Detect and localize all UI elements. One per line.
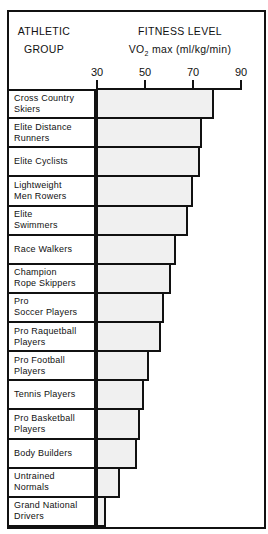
bar: [96, 323, 161, 352]
bar: [96, 177, 193, 206]
x-axis-ticks: 30 50 70 90: [0, 66, 268, 90]
row-label-line1: Race Walkers: [14, 244, 72, 255]
row-label-line1: Body Builders: [14, 448, 72, 459]
bar: [96, 207, 188, 236]
table-row: ProSoccer Players: [9, 294, 262, 323]
row-label-line2: Rope Skippers: [14, 278, 76, 289]
bar: [96, 90, 214, 119]
row-label-text: LightweightMen Rowers: [14, 180, 67, 202]
table-row: Cross CountrySkiers: [9, 90, 262, 119]
bar: [96, 352, 149, 381]
row-label: Cross CountrySkiers: [9, 90, 96, 119]
row-label: Pro RaquetballPlayers: [9, 323, 96, 352]
row-label-line2: Men Rowers: [14, 191, 67, 202]
row-label-line2: Runners: [14, 133, 72, 144]
row-label-line2: Players: [14, 424, 75, 435]
row-label-text: Race Walkers: [14, 244, 72, 255]
row-label-line1: Pro Football: [14, 355, 65, 366]
row-label-line2: Swimmers: [14, 220, 58, 231]
table-row: Pro FootballPlayers: [9, 352, 262, 381]
vo-units: max (ml/kg/min): [149, 43, 231, 55]
bar: [96, 236, 176, 265]
vo-text: VO: [129, 43, 145, 55]
row-label-line1: Grand National: [14, 500, 77, 511]
row-label-line1: Elite Distance: [14, 122, 72, 133]
row-label-line2: Soccer Players: [14, 307, 77, 318]
row-label: ProSoccer Players: [9, 294, 96, 323]
row-label-text: Body Builders: [14, 448, 72, 459]
bar: [96, 410, 140, 439]
row-label: EliteSwimmers: [9, 207, 96, 236]
row-label-line1: Pro Basketball: [14, 413, 75, 424]
table-row: Tennis Players: [9, 381, 262, 410]
row-label-line1: Elite Cyclists: [14, 156, 68, 167]
row-label-line1: Tennis Players: [14, 389, 75, 400]
table-row: Grand NationalDrivers: [9, 498, 262, 527]
table-row: Pro BasketballPlayers: [9, 410, 262, 439]
bar: [96, 469, 120, 498]
bar: [96, 119, 202, 148]
row-label-text: Pro FootballPlayers: [14, 355, 65, 377]
row-label: Elite Cyclists: [9, 148, 96, 177]
row-label-line2: Skiers: [14, 104, 74, 115]
table-row: Elite Cyclists: [9, 148, 262, 177]
table-row: Pro RaquetballPlayers: [9, 323, 262, 352]
row-label-text: Tennis Players: [14, 389, 75, 400]
tick-mark-30: [96, 80, 98, 88]
table-row: LightweightMen Rowers: [9, 177, 262, 206]
table-row: EliteSwimmers: [9, 207, 262, 236]
row-label-text: Elite Cyclists: [14, 156, 68, 167]
row-label-line2: Drivers: [14, 511, 77, 522]
tick-label-90: 90: [235, 66, 247, 78]
tick-mark-50: [144, 80, 146, 88]
tick-label-50: 50: [139, 66, 151, 78]
header-fitness-line1: FITNESS LEVEL: [110, 22, 250, 40]
row-label-text: Grand NationalDrivers: [14, 500, 77, 522]
header-group-line1: ATHLETIC: [14, 22, 74, 40]
bar: [96, 294, 164, 323]
fitness-level-header: FITNESS LEVEL VO2 max (ml/kg/min): [110, 22, 250, 63]
table-row: Elite DistanceRunners: [9, 119, 262, 148]
row-label: Pro FootballPlayers: [9, 352, 96, 381]
athletic-group-header: ATHLETIC GROUP: [14, 22, 74, 58]
row-label-text: UntrainedNormals: [14, 471, 55, 493]
tick-label-30: 30: [91, 66, 103, 78]
row-label-text: ProSoccer Players: [14, 296, 77, 318]
row-label-line1: Lightweight: [14, 180, 67, 191]
table-row: UntrainedNormals: [9, 469, 262, 498]
row-label-line1: Pro: [14, 296, 77, 307]
row-label: ChampionRope Skippers: [9, 265, 96, 294]
tick-label-70: 70: [187, 66, 199, 78]
row-label: Race Walkers: [9, 236, 96, 265]
bar: [96, 265, 171, 294]
table-row: Body Builders: [9, 440, 262, 469]
row-label-line1: Cross Country: [14, 93, 74, 104]
row-label-line1: Elite: [14, 209, 58, 220]
bar-rows: Cross CountrySkiersElite DistanceRunners…: [9, 90, 262, 527]
tick-mark-90: [240, 80, 242, 88]
bar: [96, 148, 200, 177]
tick-mark-70: [192, 80, 194, 88]
y-axis-line: [96, 88, 98, 526]
bar: [96, 440, 137, 469]
row-label-text: Elite DistanceRunners: [14, 122, 72, 144]
row-label-text: Pro RaquetballPlayers: [14, 326, 76, 348]
table-row: Race Walkers: [9, 236, 262, 265]
row-label-text: EliteSwimmers: [14, 209, 58, 231]
row-label: Pro BasketballPlayers: [9, 410, 96, 439]
row-label: Tennis Players: [9, 381, 96, 410]
row-label-line1: Untrained: [14, 471, 55, 482]
row-label: UntrainedNormals: [9, 469, 96, 498]
row-label-line1: Champion: [14, 267, 76, 278]
header-fitness-line2: VO2 max (ml/kg/min): [110, 40, 250, 63]
row-label-line1: Pro Raquetball: [14, 326, 76, 337]
table-row: ChampionRope Skippers: [9, 265, 262, 294]
row-label-line2: Players: [14, 337, 76, 348]
row-label: Grand NationalDrivers: [9, 498, 96, 527]
row-label-line2: Players: [14, 366, 65, 377]
header-group-line2: GROUP: [14, 40, 74, 58]
row-label-text: Cross CountrySkiers: [14, 93, 74, 115]
row-label: Body Builders: [9, 440, 96, 469]
row-label: Elite DistanceRunners: [9, 119, 96, 148]
row-label-text: ChampionRope Skippers: [14, 267, 76, 289]
